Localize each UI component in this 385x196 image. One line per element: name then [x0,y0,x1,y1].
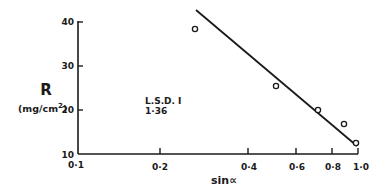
y-units-close: ) [63,103,67,114]
y-tick-label-10: 10 [61,150,74,160]
lsd-value: 1·36 [145,106,167,116]
x-tick-label-0.6: 0·6 [289,162,305,172]
x-axis-title: sin∝ [211,174,237,187]
data-point [273,83,278,88]
fitted-line [196,10,357,146]
x-tick-label-0.1: 0·1 [68,160,84,170]
x-tick-label-0.8: 0·8 [325,162,341,172]
data-point [192,26,197,31]
chart: 40 30 20 10 0·1 0·2 0·4 0·6 0·8 1·0 R (m… [0,0,385,196]
data-point [341,121,346,126]
x-tick-label-1.0: 1·0 [353,162,369,172]
y-axis-title: R [40,81,52,99]
data-point [315,107,320,112]
y-tick-label-40: 40 [61,17,74,27]
x-tick-label-0.4: 0·4 [241,162,257,172]
lsd-label: L.S.D. I [145,96,181,106]
y-tick-label-30: 30 [61,61,74,71]
x-tick-label-0.2: 0·2 [152,162,168,172]
data-point [353,140,358,145]
y-axis-units: (mg/cm2) [18,102,67,114]
y-units-text: (mg/cm [18,103,58,114]
